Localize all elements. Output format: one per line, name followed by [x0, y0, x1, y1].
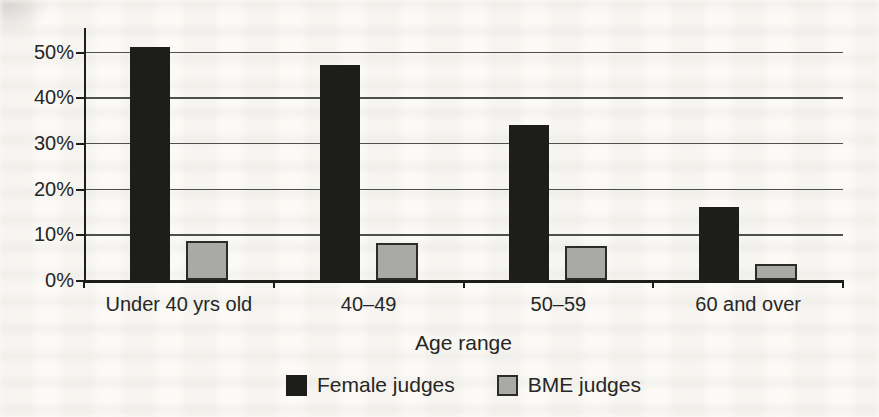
x-tick-1 — [273, 280, 275, 288]
bar-female-judges-1 — [320, 65, 360, 280]
legend-swatch-bme-judges — [497, 375, 518, 396]
gridline-40 — [84, 97, 843, 99]
x-tick-4 — [842, 280, 844, 288]
gridline-30 — [84, 143, 843, 145]
bar-bme-judges-1 — [376, 243, 418, 280]
y-tick-label-50: 50% — [12, 42, 74, 62]
bar-bme-judges-2 — [565, 246, 607, 280]
x-axis-title: Age range — [84, 331, 843, 355]
scanned-page: 0%10%20%30%40%50% Under 40 yrs old40–495… — [0, 0, 879, 417]
x-category-label-2: 50–59 — [458, 293, 658, 315]
legend-swatch-female-judges — [286, 375, 307, 396]
y-tick-label-30: 30% — [12, 133, 74, 153]
y-tick-10 — [76, 234, 84, 236]
gridline-20 — [84, 189, 843, 191]
y-tick-40 — [76, 97, 84, 99]
y-axis-line — [84, 28, 86, 282]
legend-label-bme-judges: BME judges — [528, 373, 641, 397]
gridline-50 — [84, 52, 843, 54]
bar-bme-judges-3 — [755, 264, 797, 280]
y-tick-30 — [76, 143, 84, 145]
y-tick-label-40: 40% — [12, 87, 74, 107]
legend-label-female-judges: Female judges — [317, 373, 455, 397]
bar-bme-judges-0 — [186, 241, 228, 280]
y-tick-20 — [76, 189, 84, 191]
bar-female-judges-2 — [509, 125, 549, 280]
y-tick-50 — [76, 52, 84, 54]
y-tick-label-0: 0% — [12, 270, 74, 290]
x-category-label-1: 40–49 — [269, 293, 469, 315]
x-tick-3 — [652, 280, 654, 288]
legend-item-female-judges: Female judges — [286, 373, 455, 397]
x-category-label-3: 60 and over — [648, 293, 848, 315]
x-tick-2 — [463, 280, 465, 288]
bar-female-judges-0 — [130, 47, 170, 280]
x-tick-0 — [83, 280, 85, 288]
bar-female-judges-3 — [699, 207, 739, 280]
bar-chart: 0%10%20%30%40%50% Under 40 yrs old40–495… — [0, 0, 879, 417]
y-tick-label-20: 20% — [12, 179, 74, 199]
x-category-label-0: Under 40 yrs old — [79, 293, 279, 315]
legend: Female judgesBME judges — [84, 373, 843, 397]
legend-item-bme-judges: BME judges — [497, 373, 641, 397]
y-tick-label-10: 10% — [12, 224, 74, 244]
